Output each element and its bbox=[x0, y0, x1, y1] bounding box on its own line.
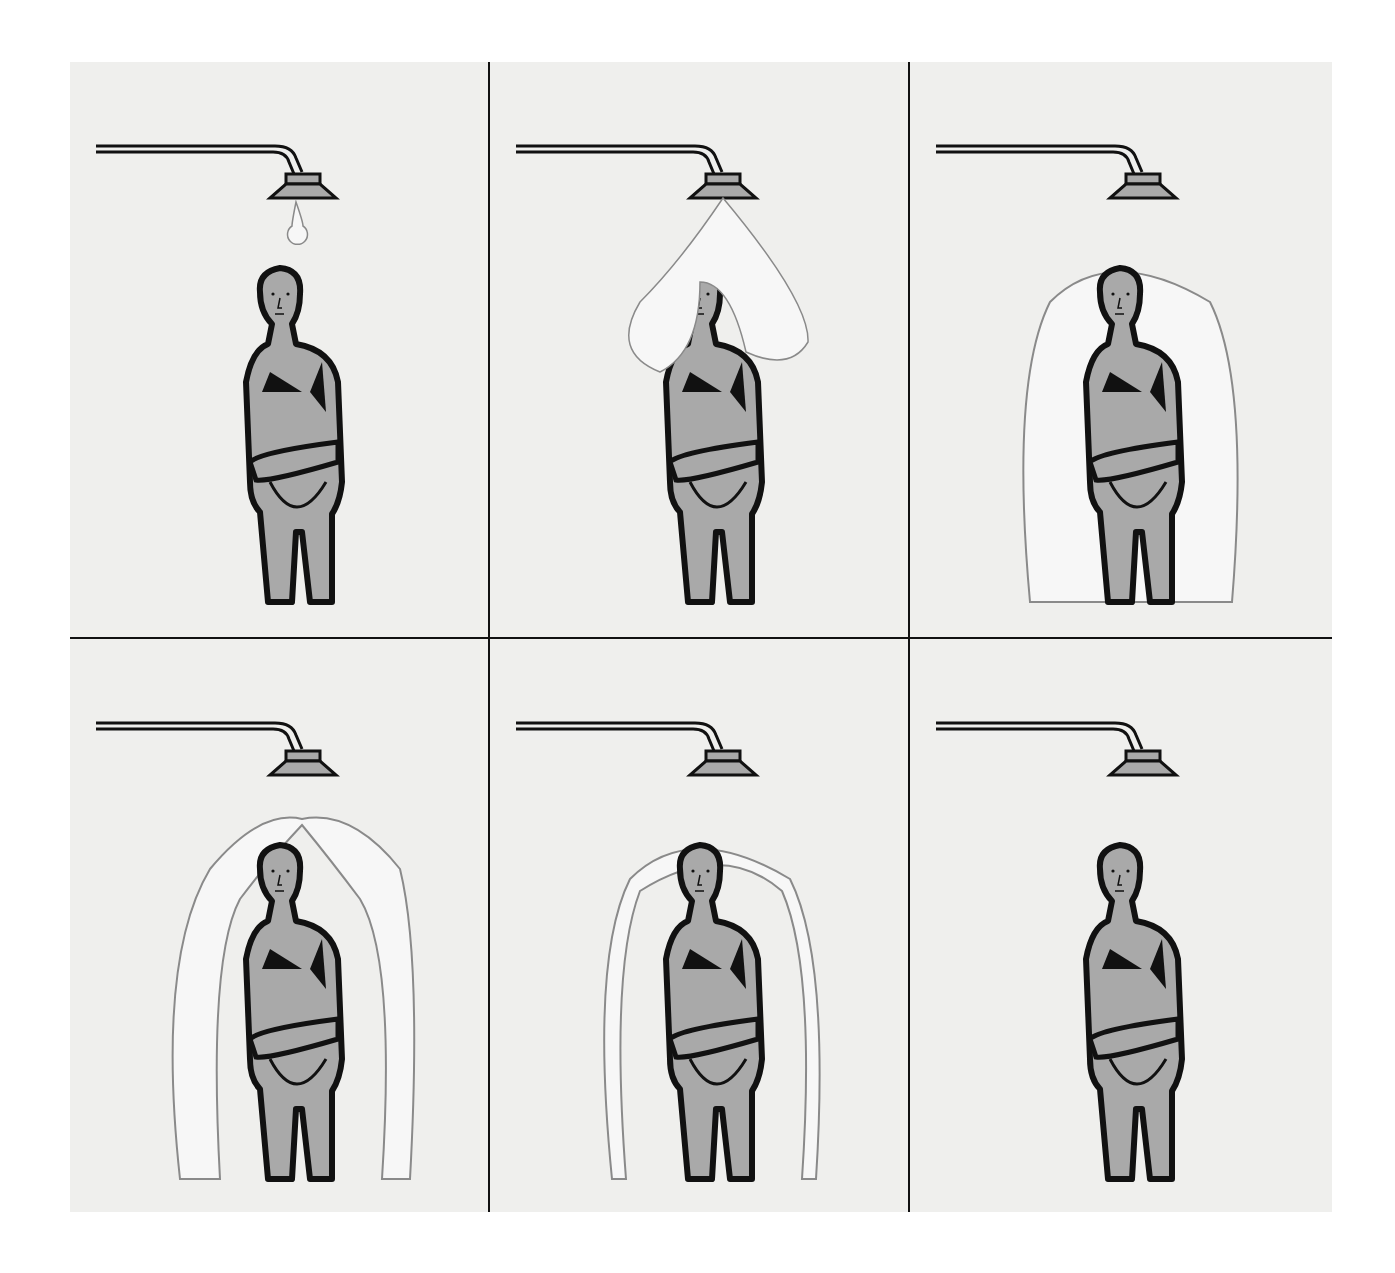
shower-head-icon bbox=[516, 146, 756, 198]
man-figure bbox=[666, 845, 762, 1179]
panel-4: water enclosure opening at top bbox=[70, 639, 488, 1214]
panel-6: no water, man alone bbox=[910, 639, 1328, 1214]
man-figure bbox=[246, 268, 342, 602]
shower-head-icon bbox=[96, 146, 336, 198]
panel-2: water cascading over head into heart sha… bbox=[490, 62, 908, 637]
shower-head-icon bbox=[936, 723, 1176, 775]
man-figure bbox=[1086, 845, 1182, 1179]
shower-head-icon bbox=[96, 723, 336, 775]
panel-3: water fully encloses body bbox=[910, 62, 1328, 637]
water-drop bbox=[288, 202, 308, 244]
shower-head-icon bbox=[936, 146, 1176, 198]
illustration-plate: drop forming at shower head water cascad… bbox=[70, 62, 1332, 1212]
man-figure bbox=[246, 845, 342, 1179]
panel-1: drop forming at shower head bbox=[70, 62, 488, 637]
panel-5: thin water shell around body bbox=[490, 639, 908, 1214]
shower-head-icon bbox=[516, 723, 756, 775]
